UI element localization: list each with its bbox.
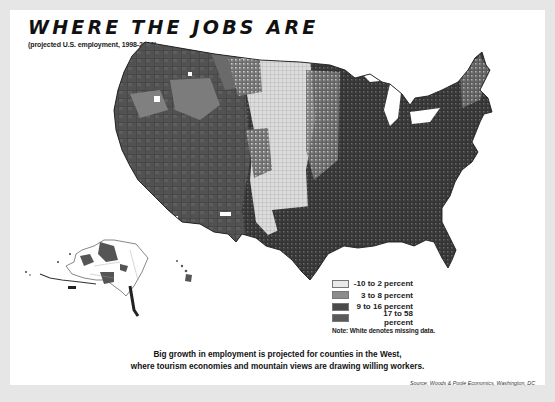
source-credit: Source: Woods & Poole Economics, Washing… [410,380,535,386]
legend-item-moderate: 3 to 8 percent [332,290,435,302]
legend-swatch-very-high [332,314,349,322]
map-panel: WHERE THE JOBS ARE (projected U.S. emplo… [10,10,545,385]
map-caption: Big growth in employment is projected fo… [10,349,545,373]
legend-swatch-low [332,280,349,288]
map-legend: -10 to 2 percent 3 to 8 percent 9 to 16 … [332,278,435,334]
legend-item-low: -10 to 2 percent [332,278,435,290]
legend-item-very-high: 17 to 58 percent [332,313,435,325]
caption-line-2: where tourism economies and mountain vie… [10,361,545,373]
hawaii-inset [176,260,192,282]
legend-swatch-moderate [332,291,349,299]
caption-line-1: Big growth in employment is projected fo… [10,349,545,361]
contiguous-us [110,40,500,285]
legend-note: Note: White denotes missing data. [332,327,435,334]
us-county-map [10,10,545,385]
alaska-inset [25,240,148,316]
legend-swatch-high [332,303,349,311]
